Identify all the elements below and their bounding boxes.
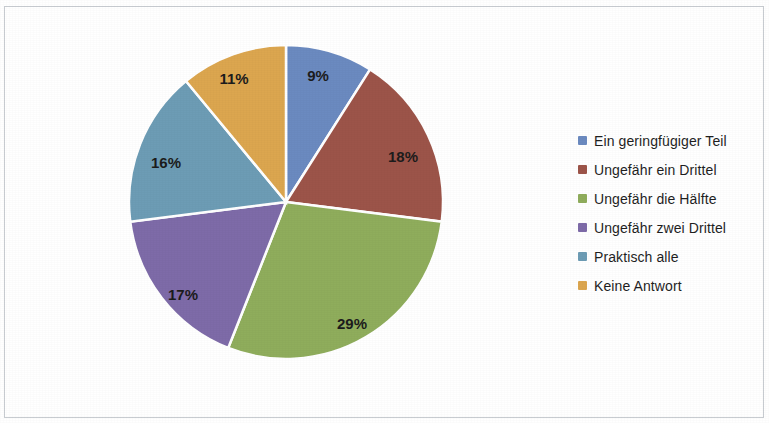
legend-item-label: Ungefähr die Hälfte (594, 191, 717, 207)
legend-item[interactable]: Ungefähr ein Drittel (578, 155, 764, 184)
legend-item-label: Ungefähr zwei Drittel (594, 220, 726, 236)
legend-color-swatch-icon (578, 281, 587, 290)
legend-item-label: Praktisch alle (594, 249, 679, 265)
legend-item[interactable]: Ein geringfügiger Teil (578, 126, 764, 155)
pie-slice-value-label: 17% (168, 286, 198, 303)
chart-legend: Ein geringfügiger TeilUngefähr ein Dritt… (578, 126, 764, 300)
legend-item-label: Keine Antwort (594, 278, 682, 294)
pie-chart-svg: 9%18%29%17%16%11% (0, 0, 560, 423)
pie-slice-group (129, 45, 443, 359)
legend-color-swatch-icon (578, 252, 587, 261)
legend-item[interactable]: Keine Antwort (578, 271, 764, 300)
legend-item-label: Ungefähr ein Drittel (594, 162, 717, 178)
legend-color-swatch-icon (578, 136, 587, 145)
pie-slice-value-label: 11% (219, 70, 248, 87)
pie-slice-value-label: 16% (151, 154, 181, 171)
pie-chart-plot-area: 9%18%29%17%16%11% (0, 0, 560, 423)
legend-item-label: Ein geringfügiger Teil (594, 133, 727, 149)
legend-color-swatch-icon (578, 165, 587, 174)
pie-slice-value-label: 9% (307, 67, 329, 84)
legend-item[interactable]: Praktisch alle (578, 242, 764, 271)
legend-item[interactable]: Ungefähr zwei Drittel (578, 213, 764, 242)
legend-item[interactable]: Ungefähr die Hälfte (578, 184, 764, 213)
pie-slice-value-label: 29% (337, 315, 367, 332)
legend-color-swatch-icon (578, 194, 587, 203)
legend-color-swatch-icon (578, 223, 587, 232)
chart-page: 9%18%29%17%16%11% Ein geringfügiger Teil… (0, 0, 769, 423)
pie-slice-value-label: 18% (388, 148, 418, 165)
